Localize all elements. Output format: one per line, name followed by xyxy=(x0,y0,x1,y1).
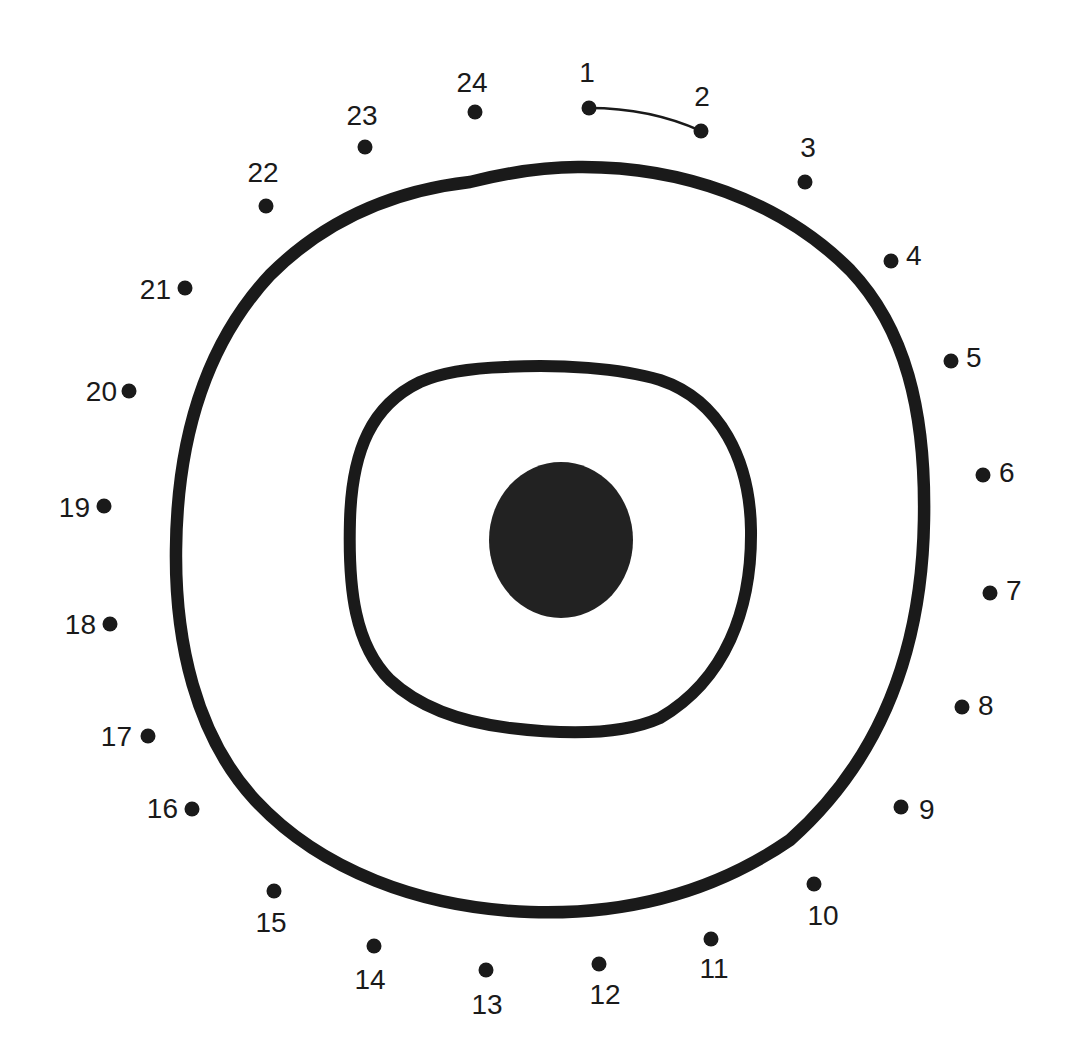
dot-18[interactable] xyxy=(103,617,118,632)
dot-2[interactable] xyxy=(694,124,709,139)
dot-label-21: 21 xyxy=(140,274,171,305)
dot-5[interactable] xyxy=(944,354,959,369)
dot-label-9: 9 xyxy=(919,794,935,825)
connected-line-1-2 xyxy=(589,108,701,131)
dot-3[interactable] xyxy=(798,175,813,190)
dot-16[interactable] xyxy=(185,802,200,817)
dot-label-19: 19 xyxy=(59,492,90,523)
dot-label-8: 8 xyxy=(978,690,994,721)
dot-21[interactable] xyxy=(178,281,193,296)
dot-15[interactable] xyxy=(267,884,282,899)
dot-11[interactable] xyxy=(704,932,719,947)
dot-label-1: 1 xyxy=(579,57,595,88)
dot-7[interactable] xyxy=(983,586,998,601)
dot-label-18: 18 xyxy=(65,609,96,640)
dot-12[interactable] xyxy=(592,957,607,972)
dot-23[interactable] xyxy=(358,140,373,155)
dot-label-17: 17 xyxy=(101,721,132,752)
dot-9[interactable] xyxy=(894,800,909,815)
dot-24[interactable] xyxy=(468,105,483,120)
dot-label-23: 23 xyxy=(346,100,377,131)
dot-10[interactable] xyxy=(807,877,822,892)
dot-label-4: 4 xyxy=(906,240,922,271)
dot-label-3: 3 xyxy=(800,132,816,163)
dot-label-15: 15 xyxy=(255,907,286,938)
dot-label-10: 10 xyxy=(807,900,838,931)
dot-label-22: 22 xyxy=(247,157,278,188)
dot-label-5: 5 xyxy=(966,342,982,373)
dot-17[interactable] xyxy=(141,729,156,744)
pupil xyxy=(489,462,633,618)
dot-to-dot-canvas: 123456789101112131415161718192021222324 xyxy=(0,0,1077,1060)
dot-label-2: 2 xyxy=(694,81,710,112)
dot-20[interactable] xyxy=(122,384,137,399)
dot-label-7: 7 xyxy=(1006,575,1022,606)
dot-label-24: 24 xyxy=(456,67,487,98)
dot-22[interactable] xyxy=(259,199,274,214)
dot-4[interactable] xyxy=(884,254,899,269)
dot-label-6: 6 xyxy=(999,457,1015,488)
dot-19[interactable] xyxy=(97,499,112,514)
dot-label-13: 13 xyxy=(471,989,502,1020)
dot-8[interactable] xyxy=(955,700,970,715)
dot-label-20: 20 xyxy=(86,376,117,407)
dot-6[interactable] xyxy=(976,468,991,483)
dot-label-16: 16 xyxy=(147,793,178,824)
dot-13[interactable] xyxy=(479,963,494,978)
dot-1[interactable] xyxy=(582,101,597,116)
dot-label-11: 11 xyxy=(699,953,728,984)
dot-label-12: 12 xyxy=(589,979,620,1010)
dot-label-14: 14 xyxy=(354,964,385,995)
dot-14[interactable] xyxy=(367,939,382,954)
